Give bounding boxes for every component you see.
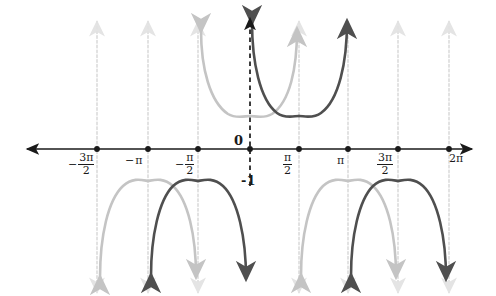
sec-branch-center-up-left: [201, 30, 250, 117]
fraction-denominator: 2: [377, 164, 393, 177]
x-tick-label-pi-over-2: π2: [283, 152, 292, 176]
fraction-numerator: π: [185, 152, 194, 164]
csc-branch-right-down-right: [398, 180, 446, 278]
x-tick-label-two-pi: 2π: [449, 152, 463, 164]
origin-label: 0: [234, 134, 243, 147]
csc-branch-left-down-right: [198, 180, 246, 278]
fraction-denominator: 2: [185, 164, 194, 177]
minus-sign-glyph: −: [68, 159, 78, 170]
secant-curve: [100, 30, 396, 278]
minus-sign-glyph: −: [175, 159, 185, 170]
csc-branch-center-up-left: [252, 22, 299, 117]
sec-branch-right-down-left: [301, 180, 348, 276]
tick-dot-neg-pi: [145, 146, 151, 152]
tick-text: π: [337, 155, 344, 166]
x-tick-label-3pi-over-2: 3π2: [377, 152, 393, 176]
tick-dot-neg-pi-over-2: [195, 146, 201, 152]
tick-dot-neg-3pi-over-2: [94, 146, 100, 152]
fraction-numerator: π: [283, 152, 292, 164]
x-tick-label-neg-pi: −π: [125, 154, 142, 166]
tick-dot-pi: [345, 146, 351, 152]
x-tick-label-neg-3pi-over-2: −3π2: [68, 152, 94, 176]
graph-canvas: −3π2 −π −π2 0 -1 π2 π 3π2 2π: [0, 0, 496, 296]
x-tick-label-neg-pi-over-2: −π2: [175, 152, 194, 176]
tick-dot-3pi-over-2: [395, 146, 401, 152]
tick-text: π: [135, 155, 142, 166]
minus-sign-glyph: −: [125, 155, 135, 166]
trig-graph-svg: [0, 0, 496, 296]
x-tick-label-pi: π: [337, 154, 344, 166]
y-value-neg-one-label: -1: [241, 174, 255, 187]
tick-dot-pi-over-2: [296, 146, 302, 152]
fraction-numerator: 3π: [78, 152, 94, 164]
fraction-numerator: 3π: [377, 152, 393, 164]
csc-branch-center-up-right: [299, 22, 347, 117]
fraction-denominator: 2: [78, 164, 94, 177]
sec-branch-left-down: [100, 180, 148, 278]
fraction-denominator: 2: [283, 164, 292, 177]
tick-dot-zero: [247, 146, 253, 152]
tick-text: 2π: [449, 153, 463, 164]
